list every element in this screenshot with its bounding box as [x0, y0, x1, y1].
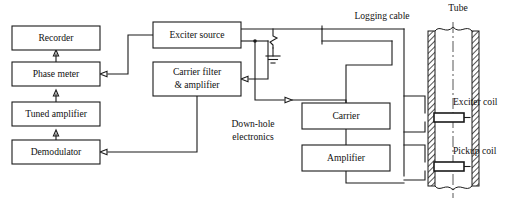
diagram-canvas: Phase meter --> Tuned amplifier -->: [0, 0, 508, 202]
block-phase-meter-label: Phase meter: [33, 68, 80, 79]
wire-bus-to-pickup-coil-return: [404, 171, 425, 180]
wire-cablereturn-to-carrierfilter: [249, 41, 268, 79]
block-carrier-filter-line2: & amplifier: [174, 79, 220, 90]
arrowhead-carrierfilter: [241, 76, 248, 82]
tube-top-break: [435, 27, 472, 31]
tube-bottom-break: [435, 186, 472, 190]
label-tube: Tube: [448, 2, 467, 13]
wire-excitersource-to-phasemeter: [108, 35, 153, 74]
wire-carrierfilter-to-demod: [108, 96, 197, 152]
block-exciter-source-label: Exciter source: [169, 29, 224, 40]
wire-amplifier-out: [346, 171, 404, 183]
block-demodulator-label: Demodulator: [31, 146, 82, 157]
tube-assembly: [428, 22, 479, 198]
free-labels: Logging cable Tube Down-hole electronics…: [231, 2, 497, 156]
arrowhead-carrier-in: [285, 97, 292, 103]
block-carrier-label: Carrier: [332, 110, 360, 121]
block-carrier-filter-line1: Carrier filter: [173, 66, 222, 77]
exciter-coil: [434, 113, 464, 122]
wire-bus-to-exciter-coil: [404, 96, 425, 113]
tube-right-wall: [472, 31, 479, 186]
label-pickup-coil: Pickup coil: [453, 145, 497, 156]
surface-blocks: Recorder Phase meter Tuned amplifier Dem…: [12, 22, 241, 164]
label-downhole-electronics-line2: electronics: [232, 131, 274, 142]
wire-jog-kink: [270, 29, 277, 48]
wire-cable-down-inner: [346, 41, 392, 103]
block-amplifier-label: Amplifier: [327, 152, 366, 163]
label-exciter-coil: Exciter coil: [453, 96, 498, 107]
wire-exciter-lead-down: [255, 41, 284, 100]
wire-bus-to-pickup-coil: [404, 145, 425, 162]
block-recorder-label: Recorder: [38, 32, 74, 43]
arrowhead-demod: [100, 149, 107, 155]
pickup-coil: [434, 162, 464, 171]
wire-group: Phase meter --> Tuned amplifier -->: [53, 26, 470, 183]
label-downhole-electronics-line1: Down-hole: [231, 118, 274, 129]
block-diagram-svg: Phase meter --> Tuned amplifier -->: [0, 0, 508, 202]
block-tuned-amplifier-label: Tuned amplifier: [25, 108, 88, 119]
label-logging-cable: Logging cable: [354, 10, 409, 21]
arrowhead-phasemeter-ref: [100, 71, 107, 77]
wire-bus-to-exciter-coil-return: [404, 122, 425, 132]
